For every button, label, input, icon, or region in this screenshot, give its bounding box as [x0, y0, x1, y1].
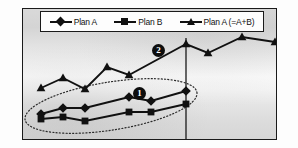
chart-legend: Plan A Plan B Plan A (=A+B) [40, 11, 264, 32]
triangle-marker-icon [180, 17, 202, 26]
ellipse-highlight [23, 69, 201, 140]
legend-item-plan-b: Plan B [114, 17, 162, 27]
chart-screenshot: Plan A Plan B Plan A (=A+B) 1 2 [0, 0, 298, 148]
square-marker-icon [114, 17, 136, 26]
callout-marker-2: 2 [152, 44, 165, 57]
legend-item-plan-a-total: Plan A (=A+B) [180, 17, 255, 27]
series-markers-plan-b [38, 101, 190, 125]
series-markers-plan-a [36, 86, 191, 119]
legend-label-plan-a: Plan A [74, 17, 97, 27]
diamond-marker-icon [50, 17, 72, 26]
callout-marker-1: 1 [133, 87, 146, 100]
legend-label-plan-a-total: Plan A (=A+B) [204, 17, 255, 27]
legend-item-plan-a: Plan A [50, 17, 97, 27]
legend-label-plan-b: Plan B [138, 17, 162, 27]
